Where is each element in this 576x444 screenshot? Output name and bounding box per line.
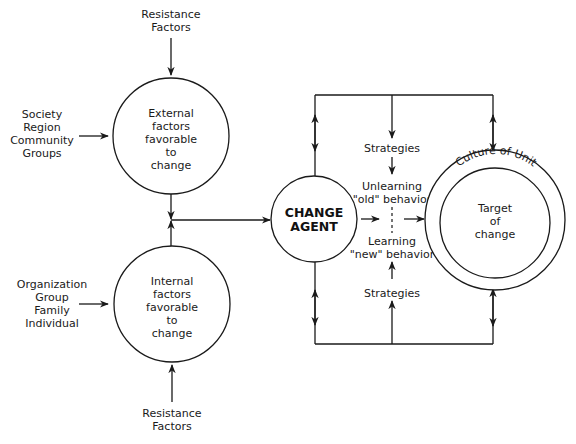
internal-factors-line-4: to — [166, 314, 177, 327]
internal-factors-line-3: favorable — [146, 301, 198, 314]
external-source-groups: Groups — [22, 147, 61, 160]
change-agent-line-1: CHANGE — [285, 205, 344, 220]
target-line-1: Target — [477, 202, 513, 215]
learning-label: Learning — [368, 235, 416, 248]
external-source-society: Society — [22, 108, 63, 121]
external-factors-line-2: factors — [152, 120, 190, 133]
internal-factors-line-2: factors — [153, 288, 191, 301]
strategies-bottom-label: Strategies — [364, 287, 420, 300]
new-behavior-label: "new" behavior — [350, 248, 435, 261]
external-source-community: Community — [10, 134, 74, 147]
internal-source-individual: Individual — [25, 317, 79, 330]
top-resistance-label-2: Factors — [151, 21, 191, 34]
external-factors-line-1: External — [148, 107, 194, 120]
strategies-top-group: Strategies — [364, 95, 420, 174]
behavior-change-group: Unlearning "old" behavior Learning "new"… — [350, 180, 435, 261]
change-agent-line-2: AGENT — [290, 219, 338, 234]
target-node: Culture of Unit Target of change — [425, 144, 565, 290]
bottom-resistance-label-1: Resistance — [142, 407, 202, 420]
bottom-resistance-group: Resistance Factors — [142, 365, 202, 433]
external-sources-group: Society Region Community Groups — [10, 108, 108, 160]
internal-factors-line-5: change — [152, 327, 193, 340]
external-source-region: Region — [23, 121, 61, 134]
external-factors-line-4: to — [165, 146, 176, 159]
strategies-bottom-group: Strategies — [364, 262, 420, 344]
external-factors-line-5: change — [151, 159, 192, 172]
change-model-diagram: Resistance Factors Society Region Commun… — [0, 0, 576, 444]
target-line-3: change — [475, 228, 516, 241]
top-resistance-label-1: Resistance — [141, 8, 201, 21]
external-factors-line-3: favorable — [145, 133, 197, 146]
top-resistance-group: Resistance Factors — [141, 8, 201, 75]
internal-factors-node: Internal factors favorable to change — [114, 246, 230, 362]
internal-source-family: Family — [34, 304, 70, 317]
strategies-top-label: Strategies — [364, 142, 420, 155]
target-line-2: of — [490, 215, 502, 228]
internal-sources-group: Organization Group Family Individual — [17, 278, 108, 330]
unlearning-label: Unlearning — [362, 180, 422, 193]
internal-source-organization: Organization — [17, 278, 87, 291]
external-factors-node: External factors favorable to change — [113, 78, 229, 194]
old-behavior-label: "old" behavior — [353, 193, 432, 206]
change-agent-node: CHANGE AGENT — [271, 176, 357, 262]
factors-junction — [171, 194, 270, 246]
internal-factors-line-1: Internal — [151, 275, 193, 288]
internal-source-group: Group — [35, 291, 69, 304]
bottom-resistance-label-2: Factors — [152, 420, 192, 433]
